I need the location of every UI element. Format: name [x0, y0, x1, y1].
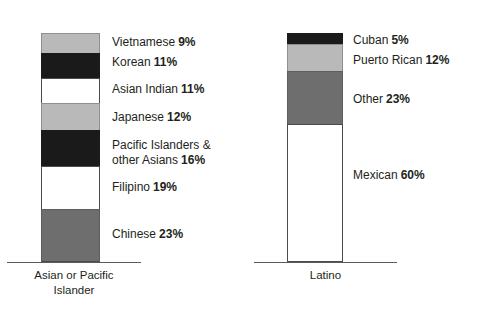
callout-label-other: Other: [353, 92, 383, 106]
callout-label-cuban: Cuban: [353, 33, 388, 47]
callout-label-chinese: Chinese: [112, 227, 156, 241]
callout-label-puerto-rican: Puerto Rican: [353, 53, 422, 67]
stacked-bar-asian-pacific-islander: [41, 33, 100, 262]
callout-chinese: Chinese23%: [112, 227, 183, 242]
callout-japanese: Japanese12%: [112, 110, 191, 125]
callout-label-filipino: Filipino: [112, 180, 150, 194]
callout-label-asian-indian: Asian Indian: [112, 82, 178, 96]
callout-label-mexican: Mexican: [353, 168, 398, 182]
callout-pct-asian-indian: 11%: [181, 82, 204, 96]
axis-label-latino: Latino: [254, 268, 397, 283]
callout-pct-pacific-islanders: 16%: [181, 153, 205, 167]
callout-mexican: Mexican60%: [353, 168, 425, 183]
bar-group-asian-pacific-islander: [41, 33, 100, 262]
bar-segment-vietnamese[interactable]: [41, 33, 100, 53]
callout-label-other-asians: other Asians: [112, 153, 178, 167]
callout-label-pacific-islanders-line2: other Asians16%: [112, 153, 211, 168]
callout-asian-indian: Asian Indian11%: [112, 82, 204, 97]
callout-label-japanese: Japanese: [112, 110, 164, 124]
bar-segment-korean[interactable]: [41, 53, 100, 78]
callout-label-vietnamese: Vietnamese: [112, 35, 175, 49]
callout-korean: Korean11%: [112, 55, 177, 70]
callout-pct-japanese: 12%: [167, 110, 191, 124]
callout-cuban: Cuban5%: [353, 33, 409, 48]
callout-pct-korean: 11%: [154, 55, 177, 69]
callout-pct-other: 23%: [386, 92, 410, 106]
callout-other: Other23%: [353, 92, 410, 107]
callout-puerto-rican: Puerto Rican12%: [353, 53, 449, 68]
stacked-bar-chart: Asian or Pacific Islander Vietnamese9% K…: [0, 0, 481, 314]
callout-pct-puerto-rican: 12%: [425, 53, 449, 67]
callout-label-korean: Korean: [112, 55, 151, 69]
callout-pct-cuban: 5%: [391, 33, 408, 47]
callout-vietnamese: Vietnamese9%: [112, 35, 196, 50]
baseline-latino: [254, 262, 397, 263]
bar-segment-chinese[interactable]: [41, 209, 100, 262]
callout-pct-vietnamese: 9%: [178, 35, 195, 49]
bar-segment-other[interactable]: [287, 71, 343, 124]
callout-pct-mexican: 60%: [401, 168, 425, 182]
callout-pct-filipino: 19%: [153, 180, 177, 194]
bar-segment-pacific-islanders-other-asians[interactable]: [41, 130, 100, 166]
bar-segment-cuban[interactable]: [287, 33, 343, 44]
baseline-asian-pacific-islander: [7, 262, 141, 263]
stacked-bar-latino: [287, 33, 343, 262]
bar-segment-asian-indian[interactable]: [41, 78, 100, 103]
callout-pacific-islanders-other-asians: Pacific Islanders & other Asians16%: [112, 138, 211, 167]
bar-group-latino: [287, 33, 343, 262]
callout-pct-chinese: 23%: [159, 227, 183, 241]
bar-segment-puerto-rican[interactable]: [287, 44, 343, 71]
bar-segment-filipino[interactable]: [41, 166, 100, 209]
bar-segment-japanese[interactable]: [41, 103, 100, 130]
callout-label-pacific-islanders: Pacific Islanders &: [112, 138, 211, 152]
callout-filipino: Filipino19%: [112, 180, 177, 195]
bar-segment-mexican[interactable]: [287, 124, 343, 262]
axis-label-asian-pacific-islander: Asian or Pacific Islander: [7, 268, 141, 298]
